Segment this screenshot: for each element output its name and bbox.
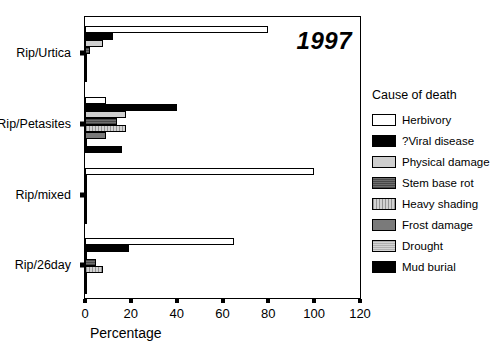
bar xyxy=(85,245,129,252)
x-axis-label: 20 xyxy=(124,306,138,321)
bar xyxy=(85,75,87,82)
legend-swatch-icon xyxy=(372,240,396,252)
bar xyxy=(85,210,87,217)
bar xyxy=(85,68,87,75)
legend-item-label: Stem base rot xyxy=(402,177,474,189)
legend-item-label: Heavy shading xyxy=(402,198,478,210)
x-axis-label: 0 xyxy=(81,306,88,321)
bar xyxy=(85,47,90,54)
legend-swatch-icon xyxy=(372,219,396,231)
bar xyxy=(85,196,87,203)
y-axis-label: Rip/mixed xyxy=(15,188,71,202)
bar xyxy=(85,26,268,33)
legend-item-label: Drought xyxy=(402,240,443,252)
bar xyxy=(85,54,87,61)
legend-item: Physical damage xyxy=(372,151,498,172)
legend-swatch-icon xyxy=(372,156,396,168)
legend-item: Frost damage xyxy=(372,214,498,235)
legend-item: Mud burial xyxy=(372,256,498,277)
legend-item: Heavy shading xyxy=(372,193,498,214)
legend-item-label: Herbivory xyxy=(402,114,451,126)
bar xyxy=(85,97,106,104)
plot-area: 1997 xyxy=(84,16,361,299)
legend: Cause of death Herbivory?Viral diseasePh… xyxy=(372,88,498,277)
bar xyxy=(85,146,122,153)
legend-swatch-icon xyxy=(372,114,396,126)
bar xyxy=(85,111,126,118)
legend-title: Cause of death xyxy=(372,88,498,102)
x-axis-tick xyxy=(221,299,225,303)
legend-item: Stem base rot xyxy=(372,172,498,193)
x-axis-label: 80 xyxy=(261,306,275,321)
x-axis-label: 60 xyxy=(215,306,229,321)
x-axis-tick xyxy=(358,299,362,303)
bar xyxy=(85,252,87,259)
x-axis-label: 120 xyxy=(349,306,371,321)
legend-item-label: Frost damage xyxy=(402,219,473,231)
legend-swatch-icon xyxy=(372,261,396,273)
bar xyxy=(85,238,234,245)
bar xyxy=(85,132,106,139)
x-axis-tick xyxy=(129,299,133,303)
bar xyxy=(85,287,87,294)
bar xyxy=(85,182,87,189)
year-annotation: 1997 xyxy=(297,27,352,55)
bar xyxy=(85,189,87,196)
bar xyxy=(85,259,96,266)
x-axis-tick xyxy=(266,299,270,303)
bar xyxy=(85,273,87,280)
bar xyxy=(85,118,117,125)
x-axis-tick xyxy=(312,299,316,303)
legend-item-label: ?Viral disease xyxy=(402,135,474,147)
x-axis-label: 40 xyxy=(169,306,183,321)
legend-item-label: Mud burial xyxy=(402,261,456,273)
x-axis-title: Percentage xyxy=(90,325,162,341)
bar xyxy=(85,203,87,210)
x-axis-tick xyxy=(83,299,87,303)
bar xyxy=(85,168,314,175)
legend-item-label: Physical damage xyxy=(402,156,490,168)
y-axis-label: Rip/Urtica xyxy=(16,46,71,60)
bar xyxy=(85,266,103,273)
bar xyxy=(85,280,87,287)
x-axis-tick xyxy=(175,299,179,303)
y-axis-label: Rip/26day xyxy=(15,258,71,272)
y-axis-label: Rip/Petasites xyxy=(0,117,71,131)
legend-swatch-icon xyxy=(372,177,396,189)
y-axis: Rip/UrticaRip/PetasitesRip/mixedRip/26da… xyxy=(0,0,80,356)
bar xyxy=(85,175,87,182)
legend-items: Herbivory?Viral diseasePhysical damageSt… xyxy=(372,109,498,277)
legend-swatch-icon xyxy=(372,198,396,210)
bar-chart-figure: Rip/UrticaRip/PetasitesRip/mixedRip/26da… xyxy=(0,0,498,356)
bar xyxy=(85,40,103,47)
bar xyxy=(85,61,87,68)
x-axis-label: 100 xyxy=(303,306,325,321)
bar xyxy=(85,217,87,224)
legend-item: Drought xyxy=(372,235,498,256)
legend-item: Herbivory xyxy=(372,109,498,130)
bar xyxy=(85,33,113,40)
legend-swatch-icon xyxy=(372,135,396,147)
bar xyxy=(85,104,177,111)
bar xyxy=(85,139,87,146)
legend-item: ?Viral disease xyxy=(372,130,498,151)
bar xyxy=(85,125,126,132)
